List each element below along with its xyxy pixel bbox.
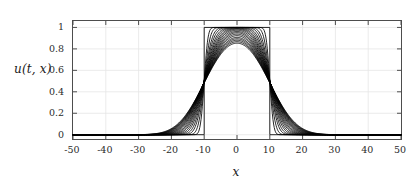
y-tick-label: 0.8	[0, 42, 64, 53]
plot-area	[72, 20, 402, 140]
x-tick-label: -30	[130, 144, 145, 155]
x-tick-label: 50	[394, 144, 406, 155]
x-tick-label: -50	[64, 144, 79, 155]
data-curves	[73, 21, 401, 139]
x-tick-label: 20	[296, 144, 308, 155]
y-tick-label: 1	[0, 21, 64, 32]
x-tick-label: -20	[163, 144, 178, 155]
x-tick-label: 10	[263, 144, 275, 155]
x-tick-label: 30	[328, 144, 340, 155]
y-tick-label: 0.2	[0, 107, 64, 118]
x-tick-label: 40	[361, 144, 373, 155]
x-tick-label: 0	[233, 144, 239, 155]
x-tick-label: -40	[97, 144, 112, 155]
figure-canvas: u(t, x) x 00.20.40.60.81 -50-40-30-20-10…	[0, 0, 414, 184]
y-tick-label: 0	[0, 128, 64, 139]
y-tick-label: 0.6	[0, 64, 64, 75]
x-axis-label: x	[233, 165, 240, 179]
x-tick-label: -10	[196, 144, 211, 155]
y-tick-label: 0.4	[0, 85, 64, 96]
